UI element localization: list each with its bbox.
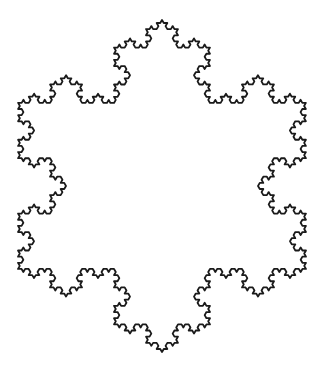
koch-snowflake-figure: Koch Snowflake Black outline Koch snowfl…: [0, 0, 326, 373]
figure-background: [0, 0, 326, 373]
figure-canvas: Koch Snowflake Black outline Koch snowfl…: [0, 0, 326, 373]
